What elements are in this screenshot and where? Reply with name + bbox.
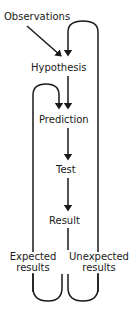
node-result: Result	[48, 215, 81, 226]
scientific-method-diagram: Observations Hypothesis Prediction Test …	[0, 0, 131, 312]
edge-expected-results-return	[33, 274, 62, 301]
node-prediction: Prediction	[38, 114, 90, 125]
node-unexpected-results: Unexpected results	[66, 252, 131, 273]
unexpected-results-line-1: Unexpected	[69, 251, 129, 262]
node-expected-results: Expected results	[1, 252, 65, 273]
node-observations: Observations	[3, 11, 71, 22]
unexpected-results-line-2: results	[82, 262, 116, 273]
node-test: Test	[55, 164, 77, 175]
edge-unexpected-results-return	[68, 274, 98, 301]
node-hypothesis: Hypothesis	[30, 62, 88, 73]
expected-results-line-1: Expected	[10, 251, 57, 262]
edge-observations-to-hypothesis	[27, 26, 60, 55]
expected-results-line-2: results	[16, 262, 50, 273]
